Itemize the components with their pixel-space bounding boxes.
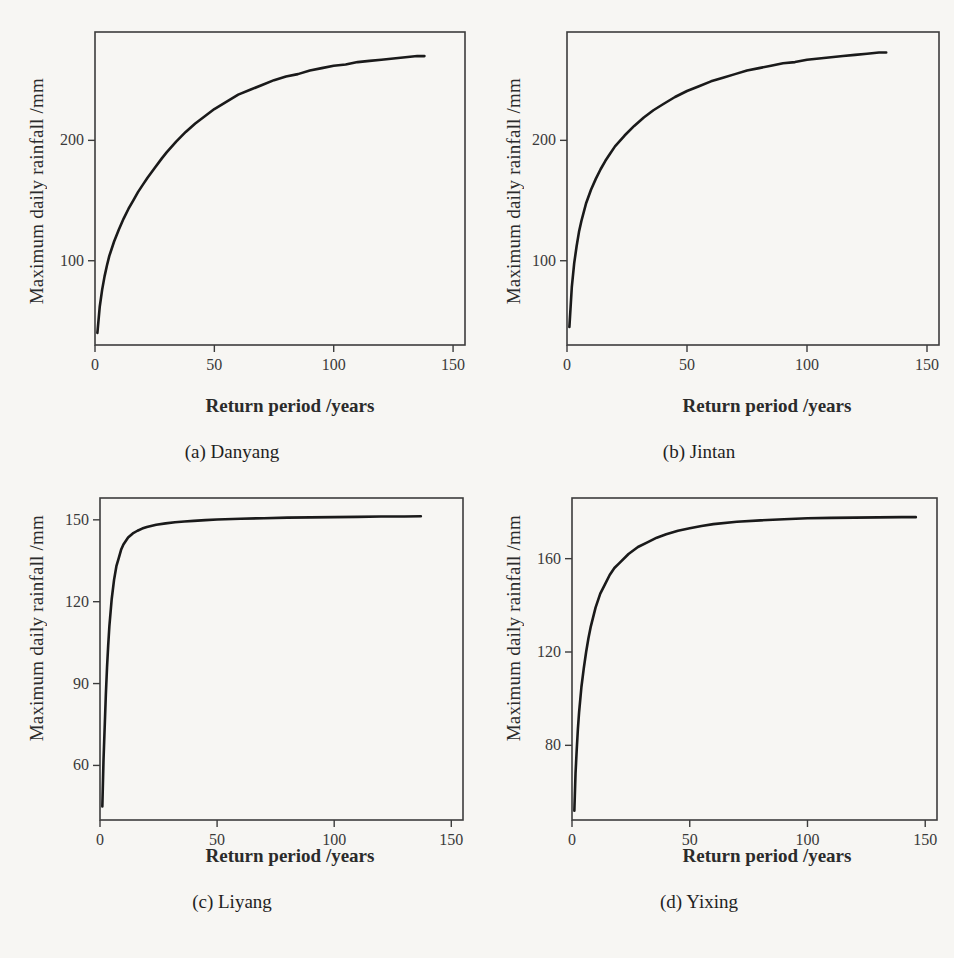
- x-tick-label-c-3: 150: [439, 831, 463, 849]
- plot-svg-c: [0, 479, 477, 958]
- y-tick-label-a-0: 100: [0, 252, 84, 270]
- x-axis-label-c: Return period /years: [100, 845, 480, 867]
- x-tick-label-c-1: 50: [209, 831, 225, 849]
- y-axis-label-b: Maximum daily rainfall /mm: [503, 78, 525, 304]
- plot-area-d: Maximum daily rainfall /mm Return period…: [477, 479, 954, 958]
- chart-panel-b: Maximum daily rainfall /mm Return period…: [477, 0, 954, 479]
- x-axis-label-b: Return period /years: [577, 395, 954, 417]
- y-tick-label-c-1: 90: [0, 675, 89, 693]
- y-tick-label-b-1: 200: [477, 131, 556, 149]
- y-tick-label-c-0: 60: [0, 756, 89, 774]
- y-tick-label-d-1: 120: [477, 643, 561, 661]
- y-axis-label-c: Maximum daily rainfall /mm: [26, 515, 48, 741]
- y-tick-label-a-1: 200: [0, 131, 84, 149]
- chart-panel-a: Maximum daily rainfall /mm Return period…: [0, 0, 477, 479]
- plot-area-c: Maximum daily rainfall /mm Return period…: [0, 479, 477, 958]
- panel-caption-c: (c) Liyang: [192, 891, 272, 913]
- x-tick-label-b-1: 50: [679, 356, 695, 374]
- y-axis-label-a: Maximum daily rainfall /mm: [26, 78, 48, 304]
- y-tick-label-d-2: 160: [477, 550, 561, 568]
- x-tick-label-a-2: 100: [322, 356, 346, 374]
- x-tick-label-c-0: 0: [96, 831, 104, 849]
- plot-area-b: Maximum daily rainfall /mm Return period…: [477, 0, 954, 479]
- x-tick-label-d-3: 150: [913, 831, 937, 849]
- x-tick-label-c-2: 100: [322, 831, 346, 849]
- y-tick-label-b-0: 100: [477, 252, 556, 270]
- x-axis-label-d: Return period /years: [577, 845, 954, 867]
- x-tick-label-a-0: 0: [91, 356, 99, 374]
- plot-area-a: Maximum daily rainfall /mm Return period…: [0, 0, 477, 479]
- x-tick-label-a-3: 150: [441, 356, 465, 374]
- x-tick-label-d-0: 0: [568, 831, 576, 849]
- y-tick-label-c-2: 120: [0, 593, 89, 611]
- panel-caption-a: (a) Danyang: [185, 441, 279, 463]
- x-tick-label-b-0: 0: [563, 356, 571, 374]
- y-tick-label-d-0: 80: [477, 736, 561, 754]
- x-tick-label-a-1: 50: [206, 356, 222, 374]
- panel-caption-b: (b) Jintan: [663, 441, 735, 463]
- x-tick-label-b-2: 100: [795, 356, 819, 374]
- figure-rainfall-return-period: Maximum daily rainfall /mm Return period…: [0, 0, 954, 958]
- chart-panel-d: Maximum daily rainfall /mm Return period…: [477, 479, 954, 958]
- x-tick-label-d-2: 100: [795, 831, 819, 849]
- y-tick-label-c-3: 150: [0, 511, 89, 529]
- x-tick-label-d-1: 50: [682, 831, 698, 849]
- panel-caption-d: (d) Yixing: [660, 891, 738, 913]
- x-axis-label-a: Return period /years: [100, 395, 480, 417]
- chart-panel-c: Maximum daily rainfall /mm Return period…: [0, 479, 477, 958]
- x-tick-label-b-3: 150: [915, 356, 939, 374]
